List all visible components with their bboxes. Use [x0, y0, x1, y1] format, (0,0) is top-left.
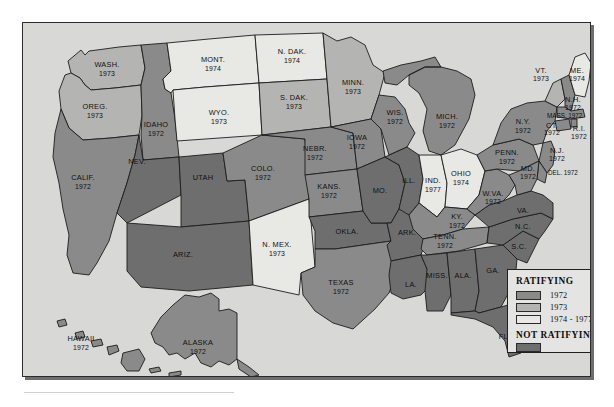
- svg-text:DEL. 1972: DEL. 1972: [548, 169, 578, 176]
- label-vermont: VT. 1973: [533, 66, 549, 82]
- legend-swatch-not-ratifying: [516, 343, 541, 352]
- state-alaska[interactable]: [151, 293, 259, 376]
- bottom-rule: [24, 392, 234, 393]
- legend-row-1973: 1973: [516, 303, 591, 312]
- state-hawaii-5[interactable]: [121, 349, 145, 371]
- state-hawaii-4: [107, 345, 119, 355]
- alaska-island-2: [169, 371, 181, 376]
- legend-row-not-ratifying: [516, 343, 591, 352]
- state-alabama[interactable]: [447, 249, 479, 313]
- state-mississippi[interactable]: [421, 253, 451, 311]
- us-map-svg: WASH. 1973 OREG. 1973 IDAHO 1972 MONT. 1…: [23, 23, 590, 376]
- svg-text:1972: 1972: [571, 133, 587, 140]
- legend-label-1972: 1972: [550, 291, 567, 300]
- map-legend: RATIFYING 1972 1973 1974 - 1977 NOT RATI…: [507, 269, 591, 353]
- state-north-dakota[interactable]: [255, 33, 327, 83]
- state-rhode-island[interactable]: [571, 119, 577, 127]
- state-texas[interactable]: [301, 241, 397, 329]
- legend-title-ratifying: RATIFYING: [516, 276, 591, 286]
- state-kansas[interactable]: [305, 169, 363, 217]
- state-new-york[interactable]: [493, 101, 557, 145]
- svg-text:1973: 1973: [533, 75, 549, 82]
- state-arizona[interactable]: [127, 221, 253, 291]
- svg-text:1972: 1972: [73, 344, 89, 351]
- legend-label-1974-1977: 1974 - 1977: [550, 315, 591, 324]
- alaska-island-1: [149, 367, 161, 373]
- map-frame: WASH. 1973 OREG. 1973 IDAHO 1972 MONT. 1…: [22, 22, 591, 377]
- legend-title-not-ratifying: NOT RATIFYING: [516, 330, 591, 340]
- svg-text:VT.: VT.: [535, 66, 546, 75]
- legend-swatch-1973: [516, 303, 541, 312]
- state-hawaii-1: [57, 319, 67, 327]
- state-hawaii-2: [75, 331, 85, 339]
- map-figure: WASH. 1973 OREG. 1973 IDAHO 1972 MONT. 1…: [0, 0, 614, 407]
- legend-label-1973: 1973: [550, 303, 567, 312]
- legend-swatch-1974-1977: [516, 315, 541, 324]
- state-wyoming[interactable]: [173, 83, 262, 141]
- legend-row-1972: 1972: [516, 291, 591, 300]
- state-hawaii-3: [91, 339, 103, 347]
- label-delaware: DEL. 1972: [548, 169, 578, 176]
- state-connecticut[interactable]: [555, 119, 571, 131]
- state-south-dakota[interactable]: [259, 79, 331, 135]
- legend-swatch-1972: [516, 291, 541, 300]
- legend-row-1974-1977: 1974 - 1977: [516, 315, 591, 324]
